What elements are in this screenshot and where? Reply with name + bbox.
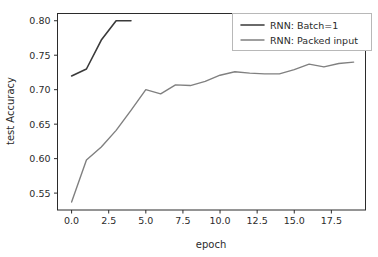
y-tick-label: 0.80 bbox=[29, 15, 50, 26]
x-tick-label: 5.0 bbox=[138, 215, 153, 226]
x-tick-label: 17.5 bbox=[321, 215, 342, 226]
x-axis-label: epoch bbox=[196, 239, 226, 250]
legend-label-batch: RNN: Batch=1 bbox=[270, 20, 338, 31]
x-tick-label: 10.0 bbox=[209, 215, 230, 226]
line-chart: 0.02.55.07.510.012.515.017.5 0.550.600.6… bbox=[0, 0, 378, 257]
x-tick-label: 12.5 bbox=[247, 215, 268, 226]
y-tick-label: 0.75 bbox=[29, 50, 50, 61]
x-tick-label: 7.5 bbox=[175, 215, 190, 226]
y-axis-label: test Accuracy bbox=[5, 77, 16, 145]
legend-label-packed: RNN: Packed input bbox=[270, 35, 358, 46]
legend: RNN: Batch=1 RNN: Packed input bbox=[233, 14, 372, 51]
y-tick-label: 0.55 bbox=[29, 188, 50, 199]
y-tick-label: 0.60 bbox=[29, 153, 50, 164]
x-tick-label: 2.5 bbox=[101, 215, 116, 226]
y-tick-label: 0.65 bbox=[29, 119, 50, 130]
figure-container: 0.02.55.07.510.012.515.017.5 0.550.600.6… bbox=[0, 0, 378, 257]
x-tick-label: 15.0 bbox=[284, 215, 305, 226]
y-tick-label: 0.70 bbox=[29, 84, 50, 95]
x-tick-label: 0.0 bbox=[64, 215, 79, 226]
